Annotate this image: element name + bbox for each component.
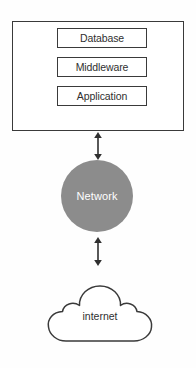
internet-label: internet — [44, 311, 156, 322]
layer-box-middleware: Middleware — [57, 57, 147, 77]
layer-box-application: Application — [57, 86, 147, 106]
layer-label-application: Application — [77, 91, 127, 102]
double-arrow-icon-network-internet — [88, 237, 108, 266]
layer-label-database: Database — [80, 33, 124, 44]
network-label: Network — [76, 191, 117, 202]
layer-box-database: Database — [57, 28, 147, 48]
network-architecture-diagram: Database Middleware Application Network … — [0, 0, 196, 368]
double-arrow-icon-system-network — [88, 132, 108, 160]
network-node: Network — [61, 160, 133, 232]
layer-label-middleware: Middleware — [76, 62, 129, 73]
